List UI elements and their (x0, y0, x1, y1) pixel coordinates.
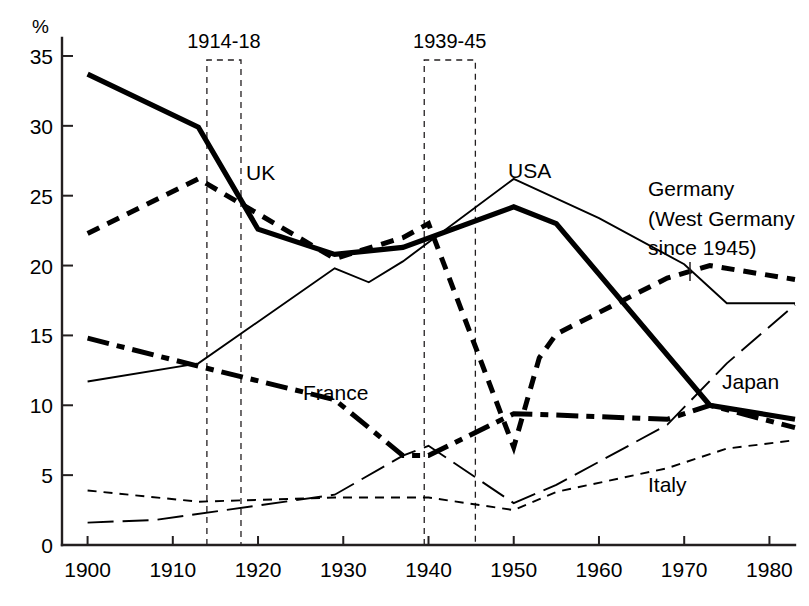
y-tick-label: 5 (41, 464, 53, 487)
series-label-germany-line3: since 1945) (648, 236, 757, 259)
y-tick-label: 20 (30, 255, 53, 278)
war-1914-18-label: 1914-18 (187, 30, 260, 52)
series-label-japan: Japan (722, 370, 779, 393)
y-tick-label: 30 (30, 115, 53, 138)
x-tick-label: 1910 (149, 558, 196, 581)
y-tick-label: 15 (30, 324, 53, 347)
war-1939-45-label: 1939-45 (413, 30, 486, 52)
war-period-bands (207, 60, 475, 545)
y-tick-label: 10 (30, 394, 53, 417)
x-tick-label: 1970 (661, 558, 708, 581)
axes: 05101520253035 1900191019201930194019501… (30, 38, 795, 581)
series-label-france: France (303, 381, 368, 404)
series-line-france (88, 338, 795, 455)
x-tick-label: 1940 (405, 558, 452, 581)
x-tick-label: 1900 (64, 558, 111, 581)
chart-container: 05101520253035 1900191019201930194019501… (0, 0, 809, 606)
x-tick-label: 1960 (576, 558, 623, 581)
y-tick-label: 25 (30, 185, 53, 208)
x-tick-label: 1950 (490, 558, 537, 581)
series-group (88, 74, 795, 522)
series-label-germany-line1: Germany (648, 177, 735, 200)
line-chart: 05101520253035 1900191019201930194019501… (0, 0, 809, 606)
series-label-germany: Germany (West Germany since 1945) (648, 177, 795, 281)
y-axis-tick-labels: 05101520253035 (30, 45, 53, 557)
series-label-germany-line2: (West Germany (648, 207, 795, 230)
x-tick-label: 1980 (746, 558, 793, 581)
series-line-japan (88, 305, 795, 523)
x-tick-label: 1920 (235, 558, 282, 581)
x-axis-tick-labels: 190019101920193019401950196019701980 (64, 558, 793, 581)
war-band (207, 60, 241, 545)
x-axis-ticks (88, 536, 770, 545)
series-label-uk: UK (246, 161, 275, 184)
series-label-usa: USA (508, 159, 551, 182)
y-tick-label: 0 (41, 534, 53, 557)
y-axis-ticks (62, 56, 73, 545)
x-tick-label: 1930 (320, 558, 367, 581)
series-label-italy: Italy (648, 473, 687, 496)
y-tick-label: 35 (30, 45, 53, 68)
y-axis-unit-label: % (32, 16, 49, 37)
